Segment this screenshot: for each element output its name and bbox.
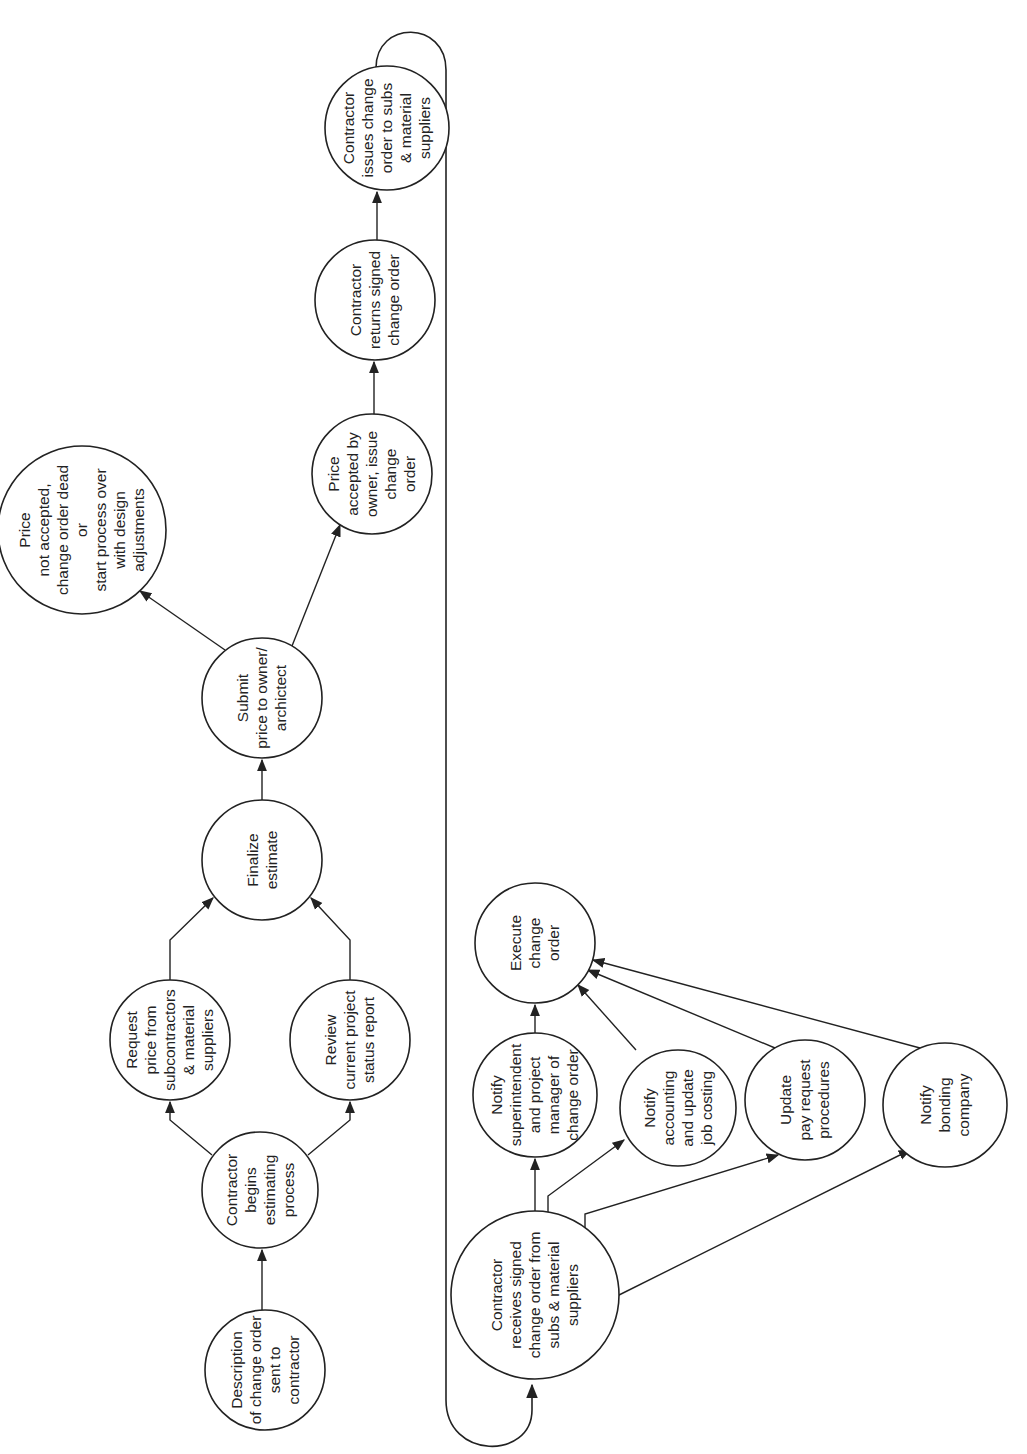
edge-begins-to-review — [308, 1102, 350, 1155]
node-label-line: contractor — [285, 1336, 302, 1405]
node-label-line: order to subs — [378, 83, 395, 174]
node-label-line: change order — [564, 1049, 581, 1140]
change-order-flowchart: Descriptionof change ordersent tocontrac… — [0, 0, 1027, 1454]
node-review: Reviewcurrent projectstatus report — [290, 980, 410, 1100]
node-submit: Submitprice to owner/archictect — [202, 638, 322, 758]
node-label-line: and project — [526, 1056, 543, 1133]
node-label-line: begins — [242, 1167, 259, 1213]
node-label-line: suppliers — [199, 1009, 216, 1071]
node-label-line: subs & material — [545, 1242, 562, 1349]
edge-update-pay-to-execute — [588, 970, 775, 1048]
node-label-line: order — [401, 456, 418, 492]
node-label-line: Notify — [641, 1088, 658, 1128]
node-request: Requestprice fromsubcontractors& materia… — [110, 980, 230, 1100]
node-label-line: Notify — [488, 1075, 505, 1115]
edge-notify-bonding-to-execute — [593, 960, 920, 1048]
node-label-line: with design — [111, 491, 128, 570]
node-label-line: company — [955, 1073, 972, 1136]
node-label-line: Request — [123, 1010, 140, 1068]
node-label-line: of change order — [247, 1316, 264, 1425]
node-label-line: bonding — [936, 1077, 953, 1132]
node-label-line: change — [382, 449, 399, 500]
node-label-line: status report — [360, 996, 377, 1083]
node-issues: Contractorissues changeorder to subs& ma… — [325, 66, 449, 190]
node-label-line: Notify — [917, 1085, 934, 1125]
node-label-line: change — [526, 918, 543, 969]
node-label-line: adjustments — [130, 488, 147, 572]
node-label-line: or — [73, 523, 90, 537]
node-label-line: manager of — [545, 1055, 562, 1134]
node-label-line: Contractor — [347, 264, 364, 336]
node-begins: Contractorbeginsestimatingprocess — [202, 1132, 318, 1248]
edge-receives-to-notify-bonding — [617, 1150, 910, 1296]
node-label-line: process — [280, 1163, 297, 1218]
node-label-line: Price — [16, 512, 33, 547]
edge-begins-to-request — [170, 1102, 212, 1155]
node-label-line: Execute — [507, 915, 524, 971]
node-label-line: Contractor — [340, 92, 357, 164]
node-label-line: accounting — [660, 1071, 677, 1146]
node-notify-accounting: Notifyaccountingand updatejob costing — [620, 1050, 736, 1166]
node-label-line: Update — [777, 1075, 794, 1125]
node-label-line: not accepted, — [35, 483, 52, 576]
node-label-line: superintendent — [507, 1043, 524, 1146]
node-label-line: Price — [325, 456, 342, 491]
node-update-pay: Updatepay requestprocedures — [745, 1040, 865, 1160]
node-label-line: receives signed — [507, 1241, 524, 1349]
node-label-line: estimate — [263, 831, 280, 890]
node-returns: Contractorreturns signedchange order — [315, 240, 435, 360]
node-label-line: price to owner/ — [253, 646, 270, 748]
node-label-line: and update — [679, 1069, 696, 1147]
node-label: Contractorreturns signedchange order — [347, 251, 402, 349]
node-label-line: change order dead — [54, 465, 71, 595]
node-label-line: archictect — [272, 664, 289, 731]
node-label-line: accepted by — [344, 432, 361, 516]
node-label-line: Description — [228, 1331, 245, 1409]
node-label-line: & material — [180, 1005, 197, 1075]
node-notify-super: Notifysuperintendentand projectmanager o… — [473, 1033, 597, 1157]
node-label-line: issues change — [359, 78, 376, 177]
node-label-line: owner, issue — [363, 431, 380, 517]
node-execute: Executechangeorder — [475, 883, 595, 1003]
node-label-line: current project — [341, 990, 358, 1090]
node-label-line: change order from — [526, 1232, 543, 1359]
node-label-line: price from — [142, 1006, 159, 1075]
node-receives: Contractorreceives signedchange order fr… — [451, 1211, 619, 1379]
node-label-line: Contractor — [488, 1259, 505, 1331]
node-label-line: sent to — [266, 1347, 283, 1394]
node-label-line: suppliers — [564, 1264, 581, 1326]
node-label-line: Submit — [234, 673, 251, 722]
node-label-line: Contractor — [223, 1154, 240, 1226]
edge-submit-to-not-accepted — [140, 591, 225, 650]
node-label-line: subcontractors — [161, 989, 178, 1091]
node-not-accepted: Pricenot accepted,change order deadorsta… — [0, 446, 166, 614]
node-finalize: Finalizeestimate — [202, 800, 322, 920]
node-label-line: Finalize — [244, 833, 261, 886]
edge-review-to-finalize — [311, 898, 350, 980]
edge-submit-to-accepted — [292, 525, 340, 646]
node-label-line: pay request — [796, 1059, 813, 1141]
node-label-line: suppliers — [416, 97, 433, 159]
node-label-line: change order — [385, 254, 402, 345]
nodes: Descriptionof change ordersent tocontrac… — [0, 66, 1007, 1430]
node-label-line: & material — [397, 93, 414, 163]
node-label-line: start process over — [92, 468, 109, 591]
node-accepted: Priceaccepted byowner, issuechangeorder — [312, 414, 432, 534]
node-label-line: Review — [322, 1014, 339, 1066]
node-label-line: returns signed — [366, 251, 383, 349]
node-label-line: estimating — [261, 1155, 278, 1226]
node-description: Descriptionof change ordersent tocontrac… — [205, 1310, 325, 1430]
node-label-line: order — [545, 925, 562, 961]
node-notify-bonding: Notifybondingcompany — [883, 1043, 1007, 1167]
edge-request-to-finalize — [170, 898, 213, 980]
node-label-line: job costing — [698, 1071, 715, 1146]
node-label-line: procedures — [815, 1061, 832, 1139]
edge-notify-accounting-to-execute — [578, 985, 636, 1050]
